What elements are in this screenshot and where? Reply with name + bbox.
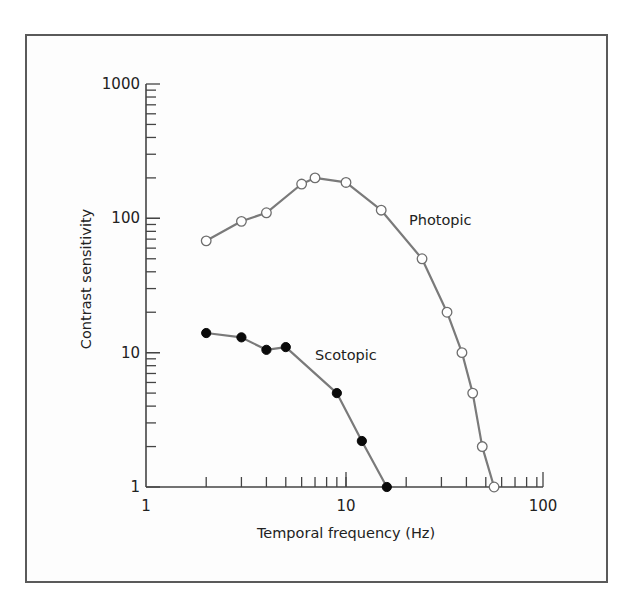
scotopic-data-point (202, 328, 211, 337)
chart-canvas: 1101001000110100 PhotopicScotopic Tempor… (0, 0, 639, 614)
scotopic-data-point (332, 389, 341, 398)
photopic-data-point (310, 173, 320, 183)
photopic-data-point (457, 348, 467, 358)
y-tick-label: 1000 (102, 75, 140, 93)
scotopic-label: Scotopic (315, 347, 377, 363)
x-tick-label: 1 (141, 497, 151, 515)
figure-frame (26, 35, 607, 582)
scotopic-data-point (281, 343, 290, 352)
photopic-data-point (468, 388, 478, 398)
photopic-data-point (376, 205, 386, 215)
y-tick-label: 100 (111, 209, 140, 227)
photopic-data-point (201, 236, 211, 246)
x-tick-label: 100 (529, 497, 558, 515)
photopic-data-point (417, 254, 427, 264)
photopic-data-point (477, 442, 487, 452)
photopic-label: Photopic (409, 212, 472, 228)
photopic-data-point (341, 178, 351, 188)
x-axis-title: Temporal frequency (Hz) (256, 525, 435, 541)
y-tick-label: 1 (130, 478, 140, 496)
photopic-data-point (442, 307, 452, 317)
scotopic-data-point (382, 482, 391, 491)
scotopic-data-point (262, 345, 271, 354)
y-axis-title: Contrast sensitivity (78, 208, 94, 349)
y-tick-label: 10 (121, 344, 140, 362)
scotopic-data-point (237, 333, 246, 342)
photopic-data-point (489, 482, 499, 492)
chart-figure: 1101001000110100 PhotopicScotopic Tempor… (0, 0, 639, 614)
scotopic-data-point (357, 436, 366, 445)
photopic-data-point (237, 217, 247, 227)
photopic-data-point (297, 179, 307, 189)
photopic-data-point (262, 208, 272, 218)
x-tick-label: 10 (336, 497, 355, 515)
